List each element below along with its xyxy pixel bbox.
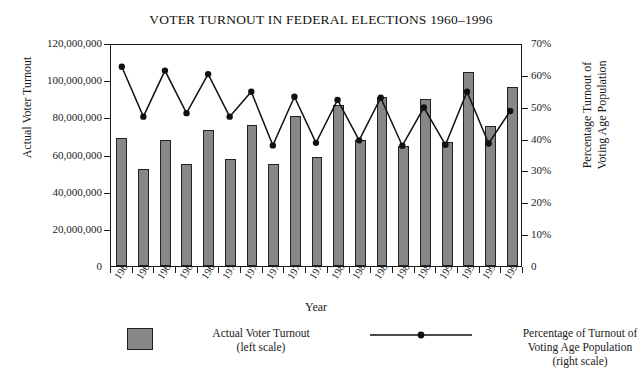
line-marker [485, 140, 491, 146]
legend-bar-sub: (left scale) [166, 340, 356, 354]
x-axis-tick [392, 267, 393, 273]
line-path [122, 67, 510, 146]
legend-line-label-2: Voting Age Population [480, 340, 642, 354]
y-axis-left-tick-label: 20,000,000 [6, 224, 102, 235]
x-axis-tick [414, 267, 415, 273]
legend-line-swatch [368, 326, 474, 350]
line-marker [313, 140, 319, 146]
x-axis-tick [153, 267, 154, 273]
x-axis-tick [262, 267, 263, 273]
x-axis-tick [283, 267, 284, 273]
legend-bar-text: Actual Voter Turnout (left scale) [166, 326, 356, 354]
x-axis-tick [218, 267, 219, 273]
legend-line-icon [368, 326, 474, 350]
line-marker [442, 142, 448, 148]
x-axis-tick [457, 267, 458, 273]
line-marker [334, 97, 340, 103]
chart-legend: Actual Voter Turnout (left scale) Percen… [110, 326, 580, 376]
y-axis-right-tick-label: 10% [531, 229, 551, 240]
x-axis-tick [305, 267, 306, 273]
line-marker [248, 89, 254, 95]
line-series [111, 45, 521, 266]
line-marker [226, 114, 232, 120]
line-marker [205, 71, 211, 77]
legend-line-label-1: Percentage of Turnout of [480, 326, 642, 340]
line-marker [162, 67, 168, 73]
line-marker [464, 89, 470, 95]
legend-line-text: Percentage of Turnout of Voting Age Popu… [480, 326, 642, 368]
x-axis-tick [240, 267, 241, 273]
line-marker [119, 64, 125, 70]
line-marker [356, 137, 362, 143]
y-axis-right-tick [522, 76, 528, 77]
line-marker [183, 110, 189, 116]
y-axis-right-tick-label: 70% [531, 38, 551, 49]
y-axis-right-title-line2: Voting Age Population [595, 25, 610, 205]
y-axis-right-tick-label: 0 [531, 261, 537, 272]
x-axis-tick [132, 267, 133, 273]
y-axis-right-tick-label: 40% [531, 134, 551, 145]
chart-title: VOTER TURNOUT IN FEDERAL ELECTIONS 1960–… [0, 12, 642, 28]
y-axis-right-tick [522, 235, 528, 236]
x-axis-tick [370, 267, 371, 273]
x-axis-tick [110, 267, 111, 273]
line-marker [140, 114, 146, 120]
y-axis-right-title: Percentage Turnout of Voting Age Populat… [580, 25, 610, 205]
y-axis-right-title-line1: Percentage Turnout of [580, 25, 595, 205]
legend-line-sub: (right scale) [480, 354, 642, 368]
x-axis-tick [197, 267, 198, 273]
y-axis-right-tick [522, 108, 528, 109]
legend-bar-swatch [127, 328, 153, 350]
x-axis-tick [327, 267, 328, 273]
line-marker [378, 95, 384, 101]
legend-bar-label: Actual Voter Turnout [166, 326, 356, 340]
line-marker [399, 143, 405, 149]
line-marker [270, 142, 276, 148]
line-marker [507, 108, 513, 114]
x-axis-tick [500, 267, 501, 273]
y-axis-right-tick [522, 171, 528, 172]
y-axis-right-tick [522, 140, 528, 141]
chart-figure: VOTER TURNOUT IN FEDERAL ELECTIONS 1960–… [0, 0, 642, 380]
x-axis-tick [175, 267, 176, 273]
line-marker [291, 94, 297, 100]
y-axis-left-tick-label: 0 [6, 261, 102, 272]
y-axis-right-tick-label: 50% [531, 102, 551, 113]
line-marker [421, 104, 427, 110]
x-axis-tick [435, 267, 436, 273]
x-axis-title: Year [110, 300, 522, 315]
y-axis-right-tick-label: 20% [531, 197, 551, 208]
x-axis-tick [522, 267, 523, 273]
x-axis-tick [349, 267, 350, 273]
y-axis-right-tick-label: 30% [531, 165, 551, 176]
y-axis-right-tick-label: 60% [531, 70, 551, 81]
plot-area [110, 44, 522, 267]
x-axis-tick [479, 267, 480, 273]
y-axis-right-tick [522, 203, 528, 204]
y-axis-left-title: Actual Voter Turnout [20, 18, 35, 198]
plot-inner [111, 45, 521, 266]
